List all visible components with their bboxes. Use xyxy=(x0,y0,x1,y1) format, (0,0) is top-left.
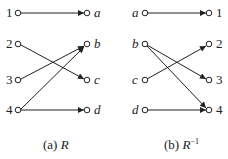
label-b: b xyxy=(132,36,139,51)
label-d: d xyxy=(94,102,101,117)
left-nodes: a b c d xyxy=(132,5,148,117)
node-b xyxy=(142,41,148,47)
diagram-r: 1 2 3 4 a b c d (a) R xyxy=(6,5,101,152)
node-3 xyxy=(206,77,212,83)
caption-a: (a) R xyxy=(43,137,69,152)
node-2 xyxy=(206,41,212,47)
edges xyxy=(21,13,84,110)
label-c: c xyxy=(132,72,138,87)
node-4 xyxy=(206,107,212,113)
label-2: 2 xyxy=(6,36,13,51)
node-a xyxy=(142,10,148,16)
label-a: a xyxy=(94,5,101,20)
node-c xyxy=(84,77,90,83)
relation-diagrams: 1 2 3 4 a b c d (a) R xyxy=(0,0,228,159)
edge-b-4 xyxy=(147,46,206,108)
node-a xyxy=(84,10,90,16)
label-1: 1 xyxy=(216,5,223,20)
diagram-r-inverse: a b c d 1 2 3 4 (b) R−1 xyxy=(132,5,223,152)
label-4: 4 xyxy=(6,102,13,117)
right-nodes: 1 2 3 4 xyxy=(206,5,223,117)
label-b: b xyxy=(94,36,101,51)
edge-4-b xyxy=(21,47,84,109)
label-2: 2 xyxy=(216,36,223,51)
node-d xyxy=(142,107,148,113)
right-nodes: a b c d xyxy=(84,5,101,117)
node-b xyxy=(84,41,90,47)
label-4: 4 xyxy=(216,102,223,117)
label-3: 3 xyxy=(6,72,13,87)
node-d xyxy=(84,107,90,113)
label-d: d xyxy=(132,102,139,117)
label-a: a xyxy=(132,5,139,20)
node-c xyxy=(142,77,148,83)
node-1 xyxy=(15,10,21,16)
label-1: 1 xyxy=(6,5,13,20)
node-3 xyxy=(15,77,21,83)
label-3: 3 xyxy=(216,72,223,87)
node-4 xyxy=(15,107,21,113)
node-1 xyxy=(206,10,212,16)
label-c: c xyxy=(94,72,100,87)
left-nodes: 1 2 3 4 xyxy=(6,5,21,117)
node-2 xyxy=(15,41,21,47)
edges xyxy=(147,13,206,110)
caption-b: (b) R−1 xyxy=(164,137,199,152)
